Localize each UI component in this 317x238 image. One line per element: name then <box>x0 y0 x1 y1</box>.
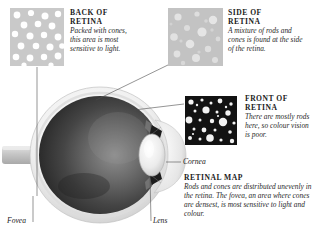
callout-heading-line2: RETINA <box>70 18 138 27</box>
callout-heading-line2: RETINA <box>228 18 304 27</box>
callout-back-of-retina: BACK OF RETINA Packed with cones, this a… <box>70 9 138 53</box>
suspensory-ligaments <box>152 127 161 183</box>
callout-body: Rods and cones are distributed unevenly … <box>184 183 312 219</box>
retina-rim <box>36 93 164 217</box>
leader-side-of-retina <box>96 64 170 100</box>
back-of-retina-swatch <box>10 8 64 66</box>
callout-side-of-retina: SIDE OF RETINA A mixture of rods and con… <box>228 9 304 53</box>
callout-front-of-retina: FRONT OF RETINA There are mostly rods he… <box>245 95 313 139</box>
optic-nerve <box>2 146 36 164</box>
callout-body: There are mostly rods here, so colour vi… <box>245 113 313 140</box>
callout-body: Packed with cones, this area is most sen… <box>70 27 138 54</box>
cornea-bulge <box>154 120 186 193</box>
sclera <box>30 87 186 223</box>
callout-heading-line2: RETINA <box>245 104 313 113</box>
lens-body <box>139 134 165 176</box>
callout-body: A mixture of rods and cones is found at … <box>228 27 304 54</box>
iris <box>145 120 162 190</box>
label-lens: Lens <box>153 216 167 225</box>
label-cornea: Cornea <box>183 157 206 166</box>
leader-lens <box>150 176 151 221</box>
front-of-retina-swatch <box>185 96 237 145</box>
leader-lines <box>33 64 184 222</box>
leader-front-of-retina <box>134 104 184 110</box>
side-of-retina-swatch <box>168 8 223 66</box>
label-fovea: Fovea <box>7 216 26 225</box>
vitreous-chamber <box>39 96 161 214</box>
callout-retinal-map: RETINAL MAP Rods and cones are distribut… <box>184 174 312 219</box>
retinal-map-figure: BACK OF RETINA Packed with cones, this a… <box>0 0 317 238</box>
